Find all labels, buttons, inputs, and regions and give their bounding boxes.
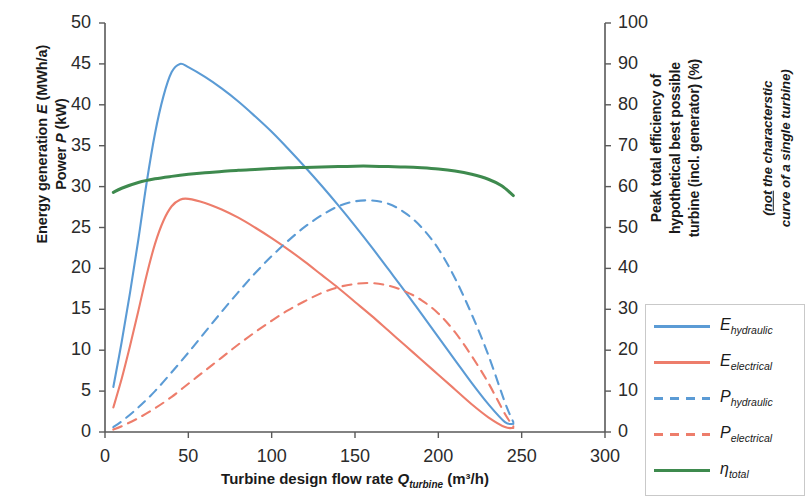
right-tick-label: 100: [618, 12, 662, 33]
x-tick-label: 300: [575, 446, 635, 467]
left-tick-label: 25: [47, 217, 91, 238]
left-tick-label: 40: [47, 94, 91, 115]
legend-entry[interactable]: Pelectrical: [654, 423, 772, 445]
legend-swatch-e-hydraulic: [654, 319, 710, 333]
left-tick-label: 15: [47, 298, 91, 319]
legend-swatch-η-total: [654, 463, 710, 477]
right-tick-label: 60: [618, 176, 662, 197]
legend-label: ηtotal: [720, 461, 749, 480]
left-tick-label: 5: [47, 380, 91, 401]
legend-swatch-p-electrical: [654, 427, 710, 441]
right-tick-label: 90: [618, 53, 662, 74]
legend-entry[interactable]: Phydraulic: [654, 387, 773, 409]
left-tick-label: 0: [47, 421, 91, 442]
legend-entry[interactable]: Ehydraulic: [654, 315, 773, 337]
series-line-E_electrical: [113, 199, 513, 429]
right-tick-label: 50: [618, 217, 662, 238]
left-tick-label: 35: [47, 135, 91, 156]
left-tick-label: 10: [47, 339, 91, 360]
series-line-P_hydraulic: [113, 200, 513, 427]
right-tick-label: 80: [618, 94, 662, 115]
x-tick-label: 50: [158, 446, 218, 467]
series-line-eta_total: [113, 166, 513, 196]
x-tick-label: 150: [325, 446, 385, 467]
legend-label: Eelectrical: [720, 353, 772, 372]
left-tick-label: 50: [47, 12, 91, 33]
legend-label: Phydraulic: [720, 389, 773, 408]
legend-label: Pelectrical: [720, 425, 772, 444]
right-tick-label: 40: [618, 257, 662, 278]
x-tick-label: 200: [408, 446, 468, 467]
series-group: [113, 64, 513, 430]
x-tick-label: 250: [492, 446, 552, 467]
left-tick-label: 30: [47, 176, 91, 197]
left-tick-label: 45: [47, 53, 91, 74]
axes-group: [99, 23, 611, 438]
legend-entry[interactable]: Eelectrical: [654, 351, 772, 373]
legend-entry[interactable]: ηtotal: [654, 459, 749, 481]
legend-label: Ehydraulic: [720, 317, 773, 336]
legend: EhydraulicEelectricalPhydraulicPelectric…: [645, 304, 805, 496]
chart-figure: Energy generation E (MWh/a) Power P (kW)…: [0, 0, 812, 501]
left-tick-label: 20: [47, 257, 91, 278]
legend-swatch-p-hydraulic: [654, 391, 710, 405]
right-tick-label: 70: [618, 135, 662, 156]
legend-swatch-e-electrical: [654, 355, 710, 369]
x-tick-label: 0: [75, 446, 135, 467]
x-tick-label: 100: [242, 446, 302, 467]
